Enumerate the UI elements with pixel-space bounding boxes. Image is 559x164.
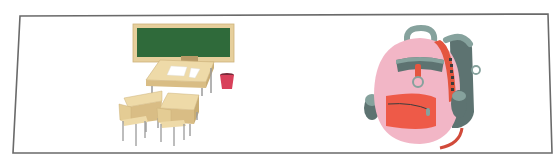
backpack-illustration: [0, 0, 559, 164]
backpack-icon: [364, 28, 480, 148]
